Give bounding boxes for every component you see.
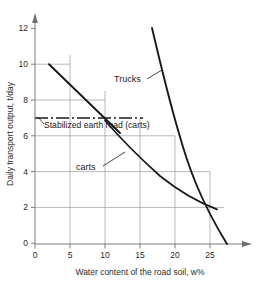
y-tick-label-8: 8 <box>23 95 28 105</box>
transport-output-chart: 12 10 8 6 4 2 0 0 5 10 15 20 25 Water co… <box>0 0 262 288</box>
y-tick-label-10: 10 <box>19 59 29 69</box>
y-axis-title: Daily transport output, t/day <box>5 81 15 186</box>
x-axis-ticks <box>35 244 210 249</box>
series-curve-carts <box>105 121 217 210</box>
y-tick-label-6: 6 <box>23 131 28 141</box>
x-tick-label-5: 5 <box>68 250 73 260</box>
chart-container: 12 10 8 6 4 2 0 0 5 10 15 20 25 Water co… <box>0 0 262 288</box>
y-axis-ticks <box>31 28 35 243</box>
y-axis-arrow <box>32 13 38 23</box>
x-axis-arrow <box>242 241 252 247</box>
y-tick-label-4: 4 <box>23 167 28 177</box>
x-axis-title: Water content of the road soil, w% <box>75 267 205 277</box>
series-label-carts: carts <box>76 162 96 172</box>
leader-line-trucks <box>147 70 162 79</box>
y-tick-label-0: 0 <box>23 238 28 248</box>
y-tick-label-2: 2 <box>23 202 28 212</box>
axes <box>35 22 243 244</box>
x-tick-label-25: 25 <box>205 250 215 260</box>
x-tick-label-10: 10 <box>100 250 110 260</box>
x-tick-label-20: 20 <box>170 250 180 260</box>
x-tick-label-0: 0 <box>33 250 38 260</box>
y-tick-label-12: 12 <box>19 23 29 33</box>
x-tick-label-15: 15 <box>135 250 145 260</box>
leader-line-carts <box>103 152 125 166</box>
series-label-stabilized-earth-road: Stabilized earth road (carts) <box>44 120 150 130</box>
series-label-trucks: Trucks <box>114 74 141 84</box>
